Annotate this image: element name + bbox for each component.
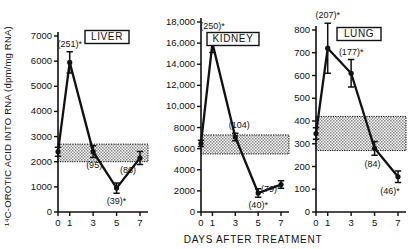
x-tick-label: 7 <box>137 217 142 228</box>
x-tick-label: 3 <box>233 217 238 228</box>
panel-group: 0100020003000400050006000700001357(251)*… <box>31 10 406 228</box>
data-point-label: (95) <box>86 160 102 170</box>
data-point-label: (46)* <box>380 186 400 196</box>
data-point <box>278 182 283 187</box>
control-range-band <box>316 116 406 150</box>
y-tick-label: 100 <box>294 183 310 194</box>
y-tick-label: 500 <box>294 92 310 103</box>
x-tick-label: 1 <box>67 217 72 228</box>
data-point-label: (250)* <box>200 21 225 31</box>
data-point <box>349 71 354 76</box>
y-tick-label: 0 <box>47 206 52 217</box>
data-series-line <box>201 43 281 193</box>
x-tick-label: 7 <box>278 217 283 228</box>
data-point <box>256 190 261 195</box>
y-tick-label: 6000 <box>174 143 195 154</box>
data-point-label: (251)* <box>57 39 82 49</box>
y-tick-label: 7000 <box>31 30 52 41</box>
data-point-label: (177)* <box>339 47 364 57</box>
y-tick-label: 200 <box>294 161 310 172</box>
panel-kidney: 0200040006000800010,00012,00014,00016,00… <box>166 16 289 228</box>
axis-lines <box>58 32 148 212</box>
data-point <box>233 134 238 139</box>
y-tick-label: 1000 <box>31 181 52 192</box>
x-tick-label: 0 <box>198 217 203 228</box>
x-tick-label: 7 <box>395 217 400 228</box>
data-point-label: (40)* <box>248 200 268 210</box>
y-tick-label: 0 <box>305 206 310 217</box>
data-point <box>114 186 119 191</box>
data-point-label: (39)* <box>107 196 127 206</box>
control-range-band <box>58 144 148 162</box>
x-tick-label: 1 <box>325 217 330 228</box>
panel-liver: 0100020003000400050006000700001357(251)*… <box>31 30 148 228</box>
y-tick-label: 18,000 <box>166 16 195 27</box>
figure-canvas: 0100020003000400050006000700001357(251)*… <box>0 0 414 249</box>
y-tick-label: 300 <box>294 138 310 149</box>
panel-title-liver: LIVER <box>91 31 123 42</box>
x-tick-label: 0 <box>313 217 318 228</box>
control-range-band <box>201 135 289 154</box>
y-tick-label: 6000 <box>31 55 52 66</box>
data-point-label: (207)* <box>315 10 340 20</box>
data-point-label: (79) <box>261 184 277 194</box>
y-tick-label: 12,000 <box>166 79 195 90</box>
y-tick-label: 2000 <box>31 156 52 167</box>
data-point-label: (86) <box>120 165 136 175</box>
y-tick-label: 10,000 <box>166 100 195 111</box>
panel-title-kidney: KIDNEY <box>213 33 254 44</box>
x-tick-label: 3 <box>348 217 353 228</box>
data-point <box>313 131 318 136</box>
data-point-label: (104) <box>229 120 250 130</box>
data-point <box>372 146 377 151</box>
y-tick-label: 14,000 <box>166 58 195 69</box>
y-tick-label: 2000 <box>174 185 195 196</box>
x-tick-label: 1 <box>210 217 215 228</box>
y-tick-label: 5000 <box>31 80 52 91</box>
y-axis-title: ¹⁴C-OROTIC ACID INTO RNA (dpm/mg RNA) <box>2 26 13 226</box>
data-point <box>91 149 96 154</box>
y-tick-label: 800 <box>294 24 310 35</box>
y-tick-label: 8000 <box>174 122 195 133</box>
data-point <box>198 141 203 146</box>
x-tick-label: 5 <box>372 217 377 228</box>
y-tick-label: 400 <box>294 115 310 126</box>
data-point <box>67 60 72 65</box>
data-point <box>55 149 60 154</box>
panel-lung: 010020030040050060070080001357(207)*(177… <box>294 10 406 228</box>
panel-title-lung: LUNG <box>344 28 374 39</box>
figure-orotic-acid-rna-incorporation: 0100020003000400050006000700001357(251)*… <box>0 0 414 249</box>
y-tick-label: 16,000 <box>166 37 195 48</box>
x-tick-label: 5 <box>114 217 119 228</box>
x-tick-label: 3 <box>90 217 95 228</box>
x-tick-label: 5 <box>255 217 260 228</box>
y-tick-label: 4000 <box>174 164 195 175</box>
y-tick-label: 0 <box>190 206 195 217</box>
y-tick-label: 4000 <box>31 105 52 116</box>
x-axis-title: DAYS AFTER TREATMENT <box>184 234 322 245</box>
data-point-label: (84) <box>365 159 381 169</box>
y-tick-label: 600 <box>294 70 310 81</box>
y-tick-label: 700 <box>294 47 310 58</box>
data-point <box>325 46 330 51</box>
x-tick-label: 0 <box>55 217 60 228</box>
data-point <box>137 155 142 160</box>
y-tick-label: 3000 <box>31 131 52 142</box>
data-point <box>395 174 400 179</box>
y-axis-title-text: ¹⁴C-OROTIC ACID INTO RNA (dpm/mg RNA) <box>2 26 13 226</box>
